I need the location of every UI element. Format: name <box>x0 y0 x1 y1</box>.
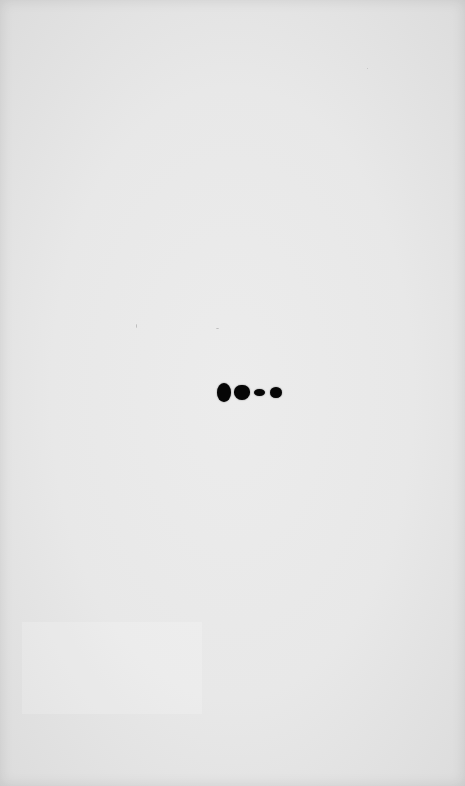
speck <box>216 328 219 329</box>
band-lane-3 <box>254 389 265 396</box>
lighter-patch <box>22 622 202 714</box>
band-lane-4 <box>270 387 282 398</box>
blot-membrane <box>0 0 465 786</box>
speck <box>367 68 368 69</box>
band-lane-1 <box>217 383 231 402</box>
band-lane-2 <box>234 385 250 400</box>
speck <box>136 324 137 328</box>
